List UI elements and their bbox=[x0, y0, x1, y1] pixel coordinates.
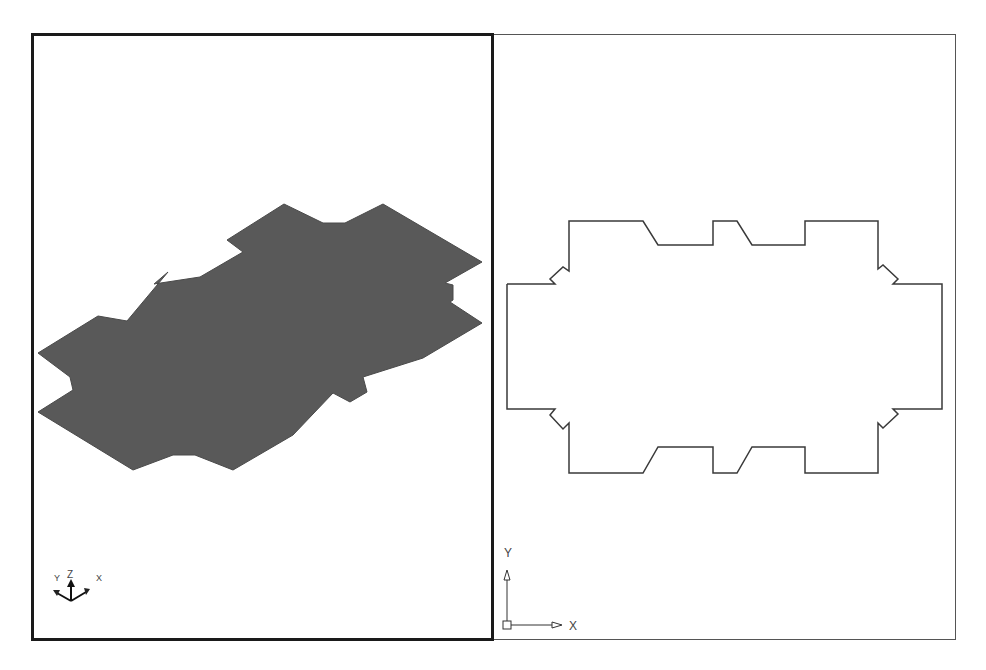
ucs-y-label: Y bbox=[504, 546, 512, 560]
drawing-canvas: Z Y X Y X bbox=[0, 0, 986, 670]
ucs-y-label: Y bbox=[54, 573, 60, 583]
ucs-2d-icon: Y X bbox=[503, 546, 577, 633]
ucs-x-label: X bbox=[569, 619, 577, 633]
ucs-3d-icon: Z Y X bbox=[53, 569, 102, 601]
ucs-x-label: X bbox=[96, 573, 102, 583]
plan-outline-shape[interactable] bbox=[507, 221, 942, 473]
isometric-solid-shape[interactable] bbox=[38, 204, 482, 470]
ucs-z-label: Z bbox=[67, 569, 73, 580]
